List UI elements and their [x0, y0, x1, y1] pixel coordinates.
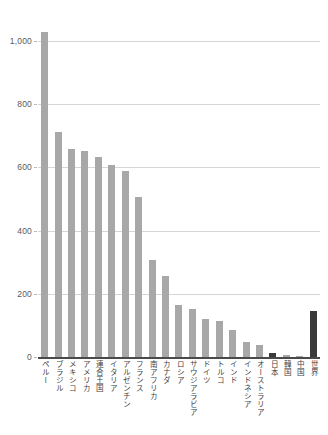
bar-インド[interactable] [229, 330, 236, 357]
bar-トルコ[interactable] [216, 321, 223, 357]
bar-ブラジル[interactable] [55, 132, 62, 357]
x-tick-label-インドネシア: インドネシア [242, 360, 250, 408]
x-tick-label-トルコ: トルコ [215, 360, 223, 384]
x-tick-label-ロシア: ロシア [175, 360, 183, 384]
x-label-slot: 韓国 [280, 360, 293, 434]
x-tick-label-イタリア: イタリア [108, 360, 116, 392]
y-tick-label: 800 [17, 99, 32, 109]
bar-南アフリカ[interactable] [149, 260, 156, 357]
x-tick-label-ドイツ: ドイツ [202, 360, 210, 384]
x-label-slot: 連合王国 [92, 360, 105, 434]
x-tick-label-アルゼンチン: アルゼンチン [121, 360, 129, 408]
x-label-slot: 中国 [293, 360, 306, 434]
y-tick-label: 600 [17, 162, 32, 172]
x-tick-label-日本: 日本 [269, 360, 277, 376]
bar-slot [159, 41, 172, 357]
bar-ロシア[interactable] [175, 305, 182, 357]
x-label-slot: ドイツ [199, 360, 212, 434]
bar-slot [280, 41, 293, 357]
x-tick-label-中国: 中国 [296, 360, 304, 376]
bar-slot [266, 41, 279, 357]
x-tick-label-フランス: フランス [134, 360, 142, 392]
x-tick-label-世界: 世界 [309, 360, 317, 376]
y-tick-mark [34, 357, 37, 358]
bar-slot [92, 41, 105, 357]
x-label-slot: トルコ [212, 360, 225, 434]
bar-世界[interactable] [310, 311, 317, 357]
bar-韓国[interactable] [283, 355, 290, 357]
x-axis-labels: ペルーブラジルメキシコアメリカ連合王国イタリアアルゼンチンフランス南アフリカカナ… [38, 360, 320, 434]
x-label-slot: アルゼンチン [119, 360, 132, 434]
bar-ペルー[interactable] [41, 32, 48, 357]
bar-chart: 02004006008001,000 ペルーブラジルメキシコアメリカ連合王国イタ… [0, 0, 328, 435]
bar-slot [132, 41, 145, 357]
bar-インドネシア[interactable] [243, 342, 250, 357]
y-tick-mark [34, 231, 37, 232]
y-tick-label: 0 [27, 352, 32, 362]
x-label-slot: フランス [132, 360, 145, 434]
bar-slot [105, 41, 118, 357]
bar-slot [119, 41, 132, 357]
y-tick-label: 1,000 [10, 36, 32, 46]
bar-アルゼンチン[interactable] [122, 171, 129, 357]
bar-slot [239, 41, 252, 357]
bar-サウジアラビア[interactable] [189, 309, 196, 357]
x-label-slot: 世界 [306, 360, 319, 434]
x-label-slot: ブラジル [51, 360, 64, 434]
bar-日本[interactable] [269, 353, 276, 357]
x-label-slot: ペルー [38, 360, 51, 434]
x-tick-label-インド: インド [228, 360, 236, 384]
y-tick-mark [34, 294, 37, 295]
x-label-slot: アメリカ [78, 360, 91, 434]
bar-連合王国[interactable] [95, 157, 102, 357]
y-tick-mark [34, 104, 37, 105]
bar-メキシコ[interactable] [68, 149, 75, 357]
bar-オーストラリア[interactable] [256, 345, 263, 357]
y-tick-mark [34, 167, 37, 168]
y-tick-mark [34, 41, 37, 42]
x-tick-label-ブラジル: ブラジル [54, 360, 62, 392]
bar-slot [199, 41, 212, 357]
x-label-slot: ロシア [172, 360, 185, 434]
x-tick-label-連合王国: 連合王国 [94, 360, 102, 392]
x-label-slot: メキシコ [65, 360, 78, 434]
bar-アメリカ[interactable] [81, 151, 88, 357]
plot-area [38, 41, 320, 357]
x-tick-label-カナダ: カナダ [161, 360, 169, 384]
bar-slot [65, 41, 78, 357]
x-label-slot: インド [226, 360, 239, 434]
y-tick-label: 400 [17, 226, 32, 236]
bar-ドイツ[interactable] [202, 319, 209, 357]
x-label-slot: イタリア [105, 360, 118, 434]
x-label-slot: 南アフリカ [145, 360, 158, 434]
bar-slot [38, 41, 51, 357]
x-tick-label-メキシコ: メキシコ [67, 360, 75, 392]
bar-slot [145, 41, 158, 357]
x-label-slot: 日本 [266, 360, 279, 434]
bar-カナダ[interactable] [162, 276, 169, 357]
x-label-slot: オーストラリア [253, 360, 266, 434]
x-tick-label-オーストラリア: オーストラリア [255, 360, 263, 416]
bar-slot [226, 41, 239, 357]
bar-イタリア[interactable] [108, 165, 115, 357]
bar-slot [51, 41, 64, 357]
bar-series [38, 41, 320, 357]
x-tick-label-アメリカ: アメリカ [81, 360, 89, 392]
bar-slot [306, 41, 319, 357]
x-tick-label-南アフリカ: 南アフリカ [148, 360, 156, 400]
x-tick-label-サウジアラビア: サウジアラビア [188, 360, 196, 416]
bar-slot [212, 41, 225, 357]
bar-slot [253, 41, 266, 357]
x-label-slot: サウジアラビア [186, 360, 199, 434]
bar-slot [78, 41, 91, 357]
y-tick-label: 200 [17, 289, 32, 299]
x-tick-label-韓国: 韓国 [282, 360, 290, 376]
bar-slot [293, 41, 306, 357]
bar-slot [186, 41, 199, 357]
bar-slot [172, 41, 185, 357]
bar-中国[interactable] [296, 356, 303, 357]
x-label-slot: カナダ [159, 360, 172, 434]
x-tick-label-ペルー: ペルー [41, 360, 49, 384]
bar-フランス[interactable] [135, 197, 142, 357]
x-label-slot: インドネシア [239, 360, 252, 434]
